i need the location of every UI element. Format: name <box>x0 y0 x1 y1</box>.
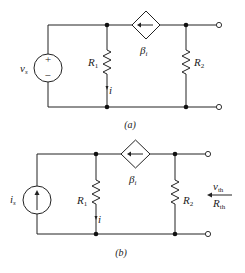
wire-a-left-top <box>48 25 132 54</box>
source-plus-a: + <box>44 53 51 65</box>
thevenin-arrowhead-icon <box>207 193 212 198</box>
node-b-2-bottom <box>173 232 178 237</box>
label-beta-a: βi <box>139 44 147 58</box>
dependent-source-arrowhead-a <box>137 23 141 28</box>
terminal-a-bottom <box>216 104 221 109</box>
resistor-r2-a <box>182 25 190 107</box>
label-is: is <box>10 193 16 207</box>
node-a-1-bottom <box>105 105 110 110</box>
source-minus-a: − <box>44 69 51 81</box>
caption-a: (a) <box>124 119 136 131</box>
circuit-b: is R1 R2 βi i vth Rth (b) <box>10 140 232 259</box>
terminal-b-bottom <box>205 231 210 236</box>
wire-b-left-top <box>37 154 121 186</box>
label-vs: vs <box>20 62 28 76</box>
label-rth: Rth <box>212 197 226 211</box>
node-b-2-top <box>173 152 178 157</box>
resistor-r2-b <box>171 154 179 234</box>
label-beta-b: βi <box>128 173 136 187</box>
circuit-diagrams: + − vs R1 R2 βi i (a) <box>0 0 245 273</box>
label-r1-a: R1 <box>87 56 99 70</box>
label-current-a: i <box>109 84 112 96</box>
terminal-b-top <box>205 151 210 156</box>
label-vth: vth <box>213 180 224 194</box>
circuit-a: + − vs R1 R2 βi i (a) <box>20 11 222 131</box>
label-current-b: i <box>98 213 101 225</box>
node-b-1-top <box>94 152 99 157</box>
current-source-arrowhead <box>35 190 40 195</box>
caption-b: (b) <box>115 247 127 259</box>
terminal-a-top <box>216 22 221 27</box>
wire-a-left-bottom <box>48 82 216 107</box>
node-b-1-bottom <box>94 232 99 237</box>
wire-b-left-bottom <box>37 214 205 234</box>
label-r2-a: R2 <box>193 56 205 70</box>
dependent-source-arrowhead-b <box>127 152 131 157</box>
node-a-1-top <box>105 23 110 28</box>
node-a-2-top <box>184 23 189 28</box>
label-r2-b: R2 <box>182 194 194 208</box>
node-a-2-bottom <box>184 105 189 110</box>
label-r1-b: R1 <box>76 194 88 208</box>
